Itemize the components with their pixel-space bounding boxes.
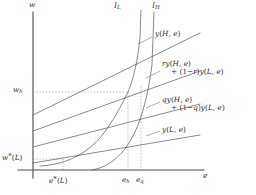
curve-label-I-H: IH: [152, 2, 160, 11]
indifference-curves: [40, 10, 154, 170]
curve-I-L: [40, 10, 141, 166]
line-label-y-L: y(L, e): [162, 126, 186, 134]
line-label-ry-mix: ry(H, e) + (1−r)y(L, e): [162, 60, 224, 77]
line-label-qy-mix: qy(H, e) + (1−q)y(L, e): [162, 96, 225, 113]
line-y-L: [33, 135, 200, 163]
y-tick-wstar-L: w*(L): [2, 153, 22, 162]
y-tick-wh: wh: [13, 86, 23, 94]
line-label-y-H-row1: y(H, e): [155, 29, 180, 38]
line-label-y-H: y(H, e): [155, 30, 180, 38]
leader-ry-mix: [146, 71, 160, 78]
curve-label-I-L: IL: [114, 2, 121, 11]
line-label-qy-mix-row2: + (1−q)y(L, e): [162, 104, 225, 112]
line-label-y-L-row1: y(L, e): [162, 125, 186, 134]
x-tick-estar-L: e*(L): [49, 176, 68, 185]
x-tick-eh: eh: [122, 176, 130, 184]
leader-qy-mix: [146, 102, 160, 108]
wage-effort-diagram: w e wh w*(L) e*(L) eh eq IL IH y(H, e) r…: [0, 0, 256, 195]
leader-y-L: [146, 131, 160, 136]
line-label-ry-mix-row2: + (1−r)y(L, e): [162, 68, 224, 76]
y-axis-label: w: [29, 1, 35, 10]
x-axis-label: e: [203, 172, 207, 181]
x-tick-eq: eq: [136, 176, 144, 184]
